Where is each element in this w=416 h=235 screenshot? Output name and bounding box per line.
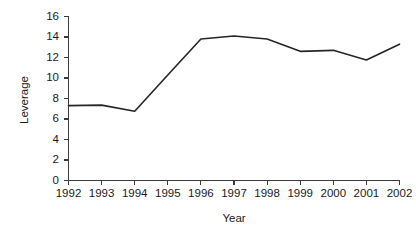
y-tick-marks <box>64 17 69 181</box>
y-tick-label-10: 10 <box>46 71 59 83</box>
x-tick-label-1998: 1998 <box>254 187 280 199</box>
x-tick-label-2001: 2001 <box>354 187 380 199</box>
leverage-line-chart: 0 2 4 6 8 10 12 14 16 1992 1993 <box>0 0 416 235</box>
x-tick-label-1992: 1992 <box>56 187 82 199</box>
y-tick-label-4: 4 <box>53 133 60 145</box>
y-tick-label-2: 2 <box>53 153 59 165</box>
x-tick-label-1996: 1996 <box>188 187 214 199</box>
y-axis-title: Leverage <box>18 76 30 124</box>
x-tick-label-1994: 1994 <box>122 187 148 199</box>
y-tick-label-0: 0 <box>53 174 59 186</box>
y-tick-label-8: 8 <box>53 92 59 104</box>
x-tick-label-1993: 1993 <box>89 187 115 199</box>
chart-figure: 0 2 4 6 8 10 12 14 16 1992 1993 <box>0 0 416 235</box>
x-axis-title: Year <box>222 212 245 224</box>
x-tick-label-1999: 1999 <box>287 187 313 199</box>
leverage-series-line <box>69 36 400 111</box>
y-tick-label-12: 12 <box>46 51 59 63</box>
y-tick-label-14: 14 <box>46 30 59 42</box>
y-tick-labels: 0 2 4 6 8 10 12 14 16 <box>46 10 59 186</box>
y-tick-label-16: 16 <box>46 10 59 22</box>
x-tick-labels: 1992 1993 1994 1995 1996 1997 1998 1999 … <box>56 187 413 199</box>
y-tick-label-6: 6 <box>53 112 59 124</box>
x-tick-marks <box>69 181 400 186</box>
x-tick-label-2000: 2000 <box>321 187 347 199</box>
x-tick-label-1995: 1995 <box>155 187 181 199</box>
x-tick-label-2002: 2002 <box>387 187 413 199</box>
x-tick-label-1997: 1997 <box>221 187 247 199</box>
axes-group <box>69 16 401 181</box>
